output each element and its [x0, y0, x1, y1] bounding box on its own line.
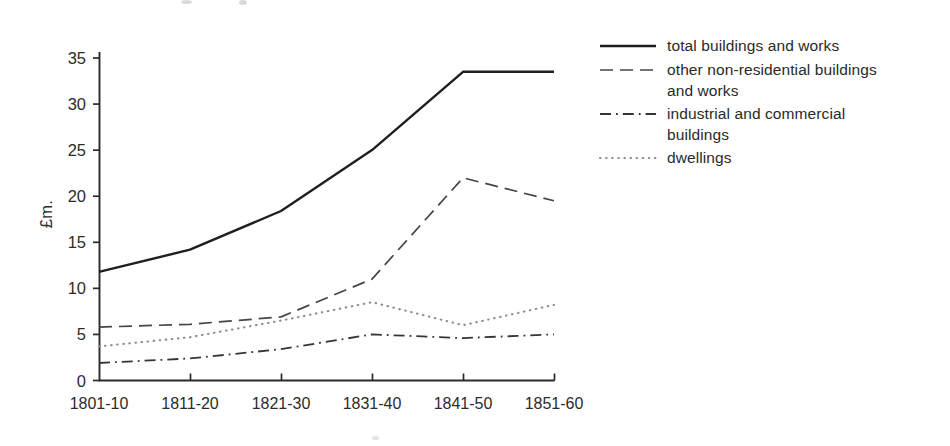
- y-tick-label: 30: [68, 95, 86, 113]
- legend-item-label: other non-residential buildings and work…: [667, 59, 907, 101]
- y-tick-label: 5: [77, 325, 86, 343]
- legend-item: industrial and commercial buildings: [598, 103, 928, 145]
- y-tick-label: 15: [68, 233, 86, 251]
- legend-line-sample-solid: [598, 35, 658, 57]
- scan-smudge: [372, 436, 379, 440]
- y-tick-label: 0: [77, 372, 86, 390]
- y-tick-label: 20: [68, 187, 86, 205]
- x-tick-label: 1841-50: [434, 395, 493, 412]
- series-line-dashed: [99, 178, 554, 327]
- legend-item-label: dwellings: [667, 147, 732, 168]
- x-tick-label: 1831-40: [343, 395, 402, 412]
- legend-item: total buildings and works: [598, 35, 928, 57]
- legend-line-sample-dashed: [598, 59, 658, 81]
- series-line-solid: [99, 72, 554, 272]
- scan-smudge: [181, 0, 192, 4]
- x-tick-label: 1811-20: [161, 395, 219, 412]
- legend-line-sample-dotted: [598, 147, 658, 169]
- axes: [100, 52, 555, 381]
- y-axis-unit-label: £m.: [37, 179, 56, 249]
- y-tick-label: 10: [68, 279, 86, 297]
- x-tick-label: 1851-60: [525, 395, 584, 412]
- chart-figure: 051015202530351801-101811-201821-301831-…: [0, 0, 950, 446]
- y-tick-label: 25: [68, 141, 86, 159]
- legend-item-label: industrial and commercial buildings: [667, 103, 907, 145]
- x-tick-label: 1801-10: [70, 395, 129, 412]
- x-tick-label: 1821-30: [252, 395, 311, 412]
- legend-item: dwellings: [598, 147, 928, 169]
- legend-line-sample-dashdot: [598, 103, 658, 125]
- scan-smudge: [239, 0, 247, 5]
- series-line-dashdot: [99, 334, 554, 363]
- legend-item-label: total buildings and works: [667, 35, 839, 56]
- y-tick-label: 35: [68, 49, 86, 67]
- legend-item: other non-residential buildings and work…: [598, 59, 928, 101]
- chart-legend: total buildings and worksother non-resid…: [598, 35, 928, 171]
